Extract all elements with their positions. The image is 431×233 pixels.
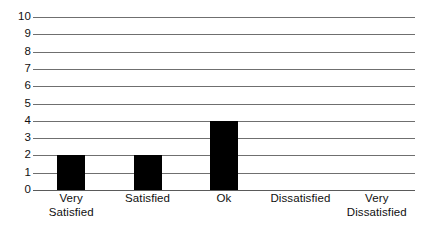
y-tick-label: 8: [0, 46, 31, 58]
plot-area: [33, 17, 415, 190]
y-axis-tick-labels: 012345678910: [0, 0, 31, 233]
x-category-label: Satisfied: [109, 192, 185, 206]
x-category-label: Ok: [186, 192, 262, 206]
y-tick-label: 4: [0, 115, 31, 127]
y-tick-label: 3: [0, 132, 31, 144]
bar-slot: [262, 17, 338, 190]
y-tick-label: 0: [0, 184, 31, 196]
bar: [134, 155, 162, 190]
y-tick-label: 1: [0, 167, 31, 179]
y-tick-label: 9: [0, 28, 31, 40]
y-tick-label: 7: [0, 63, 31, 75]
bar: [210, 121, 238, 190]
y-tick-label: 10: [0, 11, 31, 23]
x-axis-category-labels: Very SatisfiedSatisfiedOkDissatisfiedVer…: [33, 192, 415, 233]
bar-slot: [186, 17, 262, 190]
y-tick-label: 5: [0, 98, 31, 110]
bar-chart: 012345678910 Very SatisfiedSatisfiedOkDi…: [0, 0, 431, 233]
x-category-label: Dissatisfied: [262, 192, 338, 206]
bar-slot: [339, 17, 415, 190]
x-category-label: Very Dissatisfied: [339, 192, 415, 219]
y-tick-label: 2: [0, 149, 31, 161]
bars-layer: [33, 17, 415, 190]
bar-slot: [109, 17, 185, 190]
gridline-0: [33, 190, 415, 191]
bar: [57, 155, 85, 190]
y-tick-label: 6: [0, 80, 31, 92]
x-category-label: Very Satisfied: [33, 192, 109, 219]
bar-slot: [33, 17, 109, 190]
